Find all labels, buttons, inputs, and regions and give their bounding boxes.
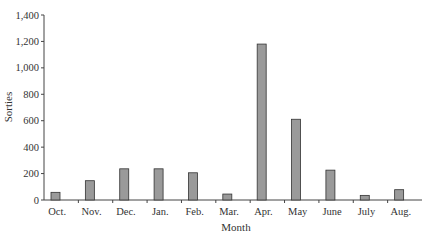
bar-may <box>292 119 301 200</box>
y-tick-label: 1,400 <box>15 10 39 21</box>
x-tick-label: Apr. <box>254 206 272 217</box>
x-tick-label: Jan. <box>152 206 169 217</box>
x-tick-label: Aug. <box>390 206 411 217</box>
bar-nov <box>85 181 94 200</box>
bar-june <box>326 170 335 200</box>
x-tick-label: Feb. <box>185 206 203 217</box>
x-axis: Oct.Nov.Dec.Jan.Feb.Mar.Apr.MayJuneJulyA… <box>44 200 422 217</box>
y-axis: 02004006008001,0001,2001,400 <box>15 10 44 206</box>
bar-oct <box>51 192 60 200</box>
y-tick-label: 1,200 <box>15 36 39 47</box>
bar-feb <box>188 173 197 200</box>
bar-chart: 02004006008001,0001,2001,400 Oct.Nov.Dec… <box>0 0 425 238</box>
x-axis-title: Month <box>221 221 251 233</box>
y-tick-label: 0 <box>34 195 39 206</box>
bar-apr <box>257 44 266 200</box>
bar-july <box>360 195 369 200</box>
y-tick-label: 600 <box>23 115 39 126</box>
y-tick-label: 400 <box>23 142 39 153</box>
y-tick-label: 200 <box>23 168 39 179</box>
x-tick-label: Mar. <box>219 206 239 217</box>
y-tick-label: 800 <box>23 89 39 100</box>
x-tick-label: June <box>322 206 342 217</box>
x-tick-label: Dec. <box>116 206 136 217</box>
x-tick-label: Nov. <box>82 206 102 217</box>
bar-aug <box>395 190 404 200</box>
bars <box>51 44 404 200</box>
y-tick-label: 1,000 <box>15 62 39 73</box>
x-tick-label: Oct. <box>48 206 66 217</box>
y-axis-title: Sorties <box>2 92 14 123</box>
bar-jan <box>154 169 163 200</box>
bar-mar <box>223 194 232 200</box>
x-tick-label: May <box>288 206 308 217</box>
bar-dec <box>120 169 129 200</box>
x-tick-label: July <box>358 206 376 217</box>
